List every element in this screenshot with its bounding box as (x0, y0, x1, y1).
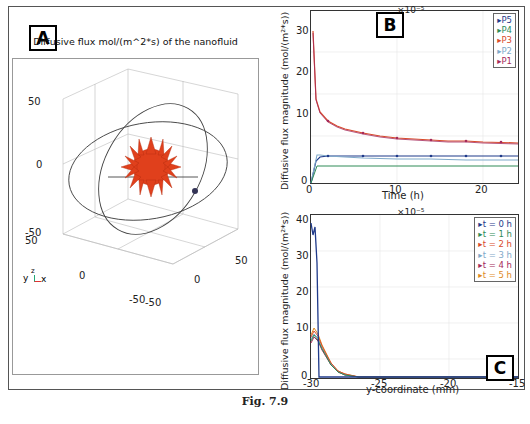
triad-x-label: x (41, 274, 46, 284)
legend-item: ▸t = 3 h (478, 250, 512, 260)
y-tick: 10 (296, 322, 309, 333)
panel-a-scene (13, 59, 258, 374)
figure-caption: Fig. 7.9 (0, 395, 530, 408)
triad-arrows-icon (34, 275, 41, 282)
x-tick: 20 (475, 184, 488, 195)
x-tick: -15 (509, 378, 525, 389)
panel-c-xlabel: y-coordinate (mm) (366, 384, 459, 395)
legend-item: ▸t = 2 h (478, 239, 512, 249)
panel-b-label: B (376, 12, 404, 38)
legend-item: ▸P3 (497, 35, 512, 45)
y-tick: 30 (296, 25, 309, 36)
y-tick: 50 (235, 255, 248, 266)
triad-y-label: y (23, 273, 28, 283)
legend-item: ▸t = 1 h (478, 229, 512, 239)
panel-c-legend: ▸t = 0 h ▸t = 1 h ▸t = 2 h ▸t = 3 h ▸t =… (474, 217, 516, 282)
legend-item: ▸t = 0 h (478, 219, 512, 229)
y-tick: 20 (296, 66, 309, 77)
legend-item: ▸P1 (497, 56, 512, 66)
panel-a-3d-plot: A Diffusive flux mol/(m^2*s) of the nano… (12, 58, 259, 375)
x-tick: 0 (306, 184, 312, 195)
probe-point (192, 188, 198, 194)
y-tick: 20 (296, 286, 309, 297)
panel-b-lines (311, 11, 518, 183)
legend-item: ▸P4 (497, 25, 512, 35)
panel-b-xlabel: Time (h) (382, 190, 424, 201)
z-tick: 50 (28, 96, 41, 107)
axis-triad: z y x (23, 267, 53, 287)
z-tick: 0 (36, 159, 42, 170)
panel-b-ylabel: Diffusive flux magnitude (mol/(m²*s)) (279, 12, 290, 190)
legend-item: ▸t = 4 h (478, 260, 512, 270)
panel-b-legend: ▸P5 ▸P4 ▸P3 ▸P2 ▸P1 (493, 13, 516, 68)
x-tick: -50 (129, 294, 145, 305)
legend-item: ▸P2 (497, 46, 512, 56)
y-tick: -50 (145, 297, 161, 308)
y-tick: 10 (296, 108, 309, 119)
y-tick: 0 (194, 274, 200, 285)
panel-b-exponent: ×10⁻⁵ (397, 5, 424, 15)
legend-item: ▸t = 5 h (478, 270, 512, 280)
y-tick: 40 (296, 214, 309, 225)
legend-item: ▸P5 (497, 15, 512, 25)
triad-z-label: z (31, 267, 35, 275)
x-tick: 0 (79, 270, 85, 281)
panel-c-exponent: ×10⁻⁵ (397, 207, 424, 217)
x-tick: 50 (25, 235, 38, 246)
x-tick: -30 (303, 378, 319, 389)
panel-a-title: Diffusive flux mol/(m^2*s) of the nanofl… (13, 36, 258, 47)
panel-c-ylabel: Diffusive flux magnitude (mol/(m²*s)) (279, 212, 290, 390)
panel-b-plot-area: ▸P5 ▸P4 ▸P3 ▸P2 ▸P1 (310, 10, 519, 184)
y-tick: 30 (296, 250, 309, 261)
